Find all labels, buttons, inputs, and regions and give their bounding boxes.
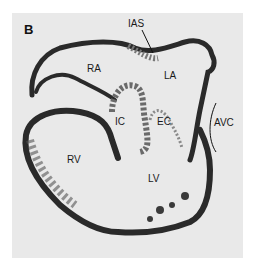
atrial-wall xyxy=(32,41,214,160)
heart-section-illustration xyxy=(0,0,257,275)
ventricular-wall xyxy=(25,111,210,233)
label-lv: LV xyxy=(148,174,160,184)
label-la: LA xyxy=(164,71,176,81)
panel-letter: B xyxy=(24,22,33,37)
label-ra: RA xyxy=(87,64,101,74)
label-avc: AVC xyxy=(214,118,234,128)
label-ias: IAS xyxy=(128,19,144,29)
label-ic: IC xyxy=(115,117,125,127)
label-rv: RV xyxy=(67,155,81,165)
label-ec: EC xyxy=(157,117,171,127)
